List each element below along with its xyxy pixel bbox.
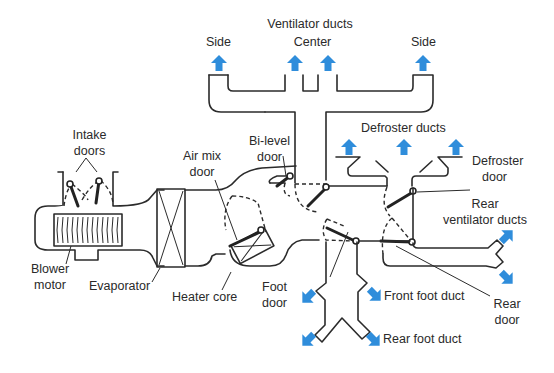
rear-foot-right-arrow-icon <box>363 329 386 352</box>
hvac-diagram <box>0 0 554 373</box>
label-intake-line2: doors <box>62 143 117 159</box>
label-rear-door-line2: door <box>487 312 527 328</box>
label-defroster-door-line1: Defroster <box>472 153 523 169</box>
label-air-mix-line2: door <box>176 164 228 180</box>
center-left-arrow-icon <box>287 55 303 71</box>
vent-arrows <box>211 55 431 71</box>
front-foot-right-arrow-icon <box>364 284 387 307</box>
label-air-mix-line1: Air mix <box>176 148 228 164</box>
label-foot-line2: door <box>262 295 287 311</box>
label-blower-line2: motor <box>26 277 74 293</box>
label-bi-level-line1: Bi-level <box>242 133 297 149</box>
label-front-foot-duct: Front foot duct <box>384 289 465 304</box>
rear-vent-upper-arrow-icon <box>496 225 519 248</box>
label-intake-line1: Intake <box>62 127 117 143</box>
rear-vent-lower-arrow-icon <box>496 267 519 290</box>
label-rear-door-line1: Rear <box>487 296 527 312</box>
label-defroster-door-line2: door <box>472 169 523 185</box>
central-plenum <box>295 184 416 254</box>
label-blower-line1: Blower <box>26 261 74 277</box>
side-left-arrow-icon <box>211 55 227 71</box>
defrost-right-arrow-icon <box>448 139 464 155</box>
label-intake-doors: Intake doors <box>62 127 117 159</box>
blower-housing <box>35 172 164 266</box>
label-blower-motor: Blower motor <box>26 261 74 293</box>
label-defroster-door: Defroster door <box>472 153 523 185</box>
rear-ventilator-ducts <box>383 225 518 290</box>
label-rear-ventilator-ducts: Rear ventilator ducts <box>425 196 545 228</box>
heater-core <box>225 196 319 266</box>
bi-level-door <box>269 173 293 196</box>
defroster-ducts <box>326 139 464 186</box>
label-evaporator: Evaporator <box>89 279 150 294</box>
label-side-right: Side <box>411 35 436 50</box>
label-bi-level-line2: door <box>242 149 297 165</box>
label-rear-foot-duct: Rear foot duct <box>383 332 462 347</box>
label-defroster-ducts: Defroster ducts <box>361 121 446 136</box>
evaporator <box>157 166 296 267</box>
side-right-arrow-icon <box>415 55 431 71</box>
defrost-left-arrow-icon <box>341 139 357 155</box>
label-bi-level-door: Bi-level door <box>242 133 297 165</box>
front-foot-left-arrow-icon <box>297 286 320 309</box>
label-air-mix-door: Air mix door <box>176 148 228 180</box>
foot-ducts <box>297 242 387 351</box>
label-side-left: Side <box>206 35 231 50</box>
rear-foot-left-arrow-icon <box>297 329 320 352</box>
label-rear-vent-line2: ventilator ducts <box>425 212 545 228</box>
label-rear-door: Rear door <box>487 296 527 328</box>
label-ventilator-ducts: Ventilator ducts <box>255 17 365 32</box>
blower-grille <box>57 217 118 243</box>
label-foot-line1: Foot <box>262 279 287 295</box>
defrost-center-arrow-icon <box>396 139 412 155</box>
label-rear-vent-line1: Rear <box>425 196 545 212</box>
label-foot-door: Foot door <box>262 279 287 311</box>
label-heater-core: Heater core <box>172 290 237 305</box>
label-center: Center <box>285 35 340 50</box>
center-right-arrow-icon <box>320 55 336 71</box>
